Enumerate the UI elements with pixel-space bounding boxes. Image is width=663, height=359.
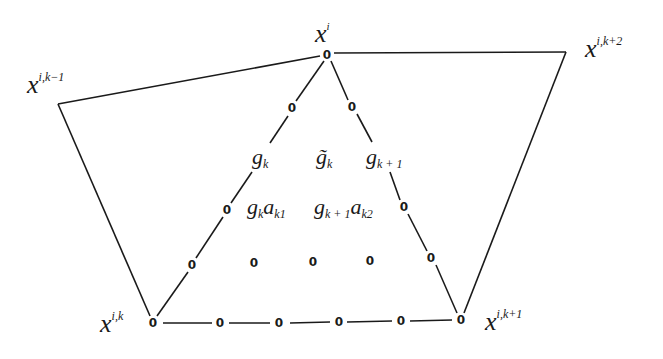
apex-zero: 0 xyxy=(323,48,331,62)
bottom-edge-zero: 0 xyxy=(335,315,343,329)
edge-apex-to-right-outer xyxy=(334,52,566,53)
left-edge-zero: 0 xyxy=(188,258,196,272)
bottom-edge-zero: 0 xyxy=(216,316,224,330)
edge-segment xyxy=(410,320,452,321)
bottom-right-zero: 0 xyxy=(457,313,465,327)
triangular-patch-diagram: 0 0 0 0 0 0 0 0 0 0 0 0 0 0 0 0 xi xi,k−… xyxy=(0,0,663,359)
edge-segment xyxy=(347,321,392,322)
background xyxy=(0,0,663,359)
right-edge-zero: 0 xyxy=(427,251,435,265)
bottom-edge-zero: 0 xyxy=(397,314,405,328)
left-edge-zero: 0 xyxy=(288,101,296,115)
bottom-left-zero: 0 xyxy=(149,316,157,330)
interior-zero: 0 xyxy=(250,256,258,270)
bottom-edge-zero: 0 xyxy=(275,316,283,330)
right-edge-zero: 0 xyxy=(400,200,408,214)
edge-segment xyxy=(290,322,330,323)
interior-zero: 0 xyxy=(366,254,374,268)
left-edge-zero: 0 xyxy=(223,203,231,217)
interior-zero: 0 xyxy=(309,255,317,269)
right-edge-zero: 0 xyxy=(348,100,356,114)
